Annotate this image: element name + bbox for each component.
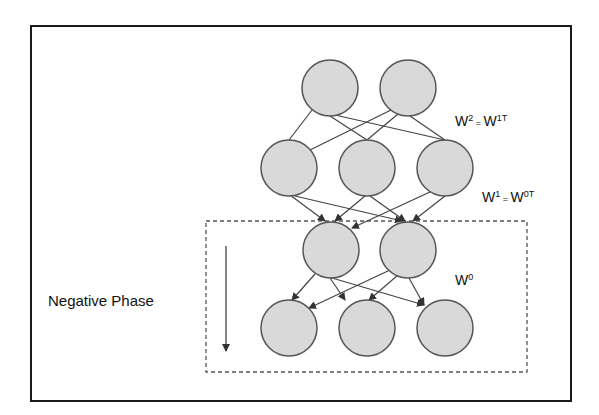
node [261, 300, 317, 356]
node [302, 60, 358, 116]
edges-hidden2-to-hidden1 [290, 192, 445, 228]
weight-label-w0: W0 [455, 272, 473, 288]
node [339, 140, 395, 196]
node [303, 222, 359, 278]
node [380, 222, 436, 278]
node [339, 300, 395, 356]
layer-hidden-1 [303, 222, 436, 278]
layer-hidden-2 [261, 140, 473, 196]
node [380, 60, 436, 116]
weight-label-w1: W1 = W0T [482, 189, 535, 205]
dbn-negative-phase-diagram: Negative Phase W2 = W1T W1 = W0T W0 [0, 0, 599, 415]
node [261, 140, 317, 196]
negative-phase-label: Negative Phase [48, 292, 154, 309]
layer-visible [261, 300, 473, 356]
node [417, 140, 473, 196]
layer-top [302, 60, 436, 116]
node [417, 300, 473, 356]
weight-label-w2: W2 = W1T [455, 113, 508, 129]
